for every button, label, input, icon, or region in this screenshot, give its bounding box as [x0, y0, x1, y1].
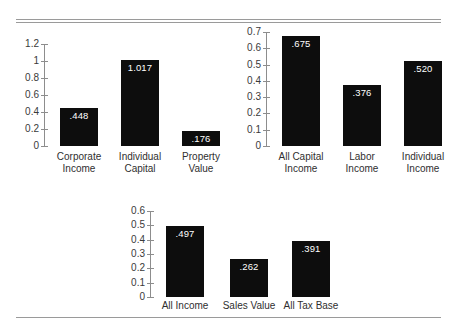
- y-axis-tick: [263, 97, 270, 98]
- y-axis-tick: [263, 48, 270, 49]
- y-axis-tick: [147, 297, 154, 298]
- x-axis-category-label: All Income: [152, 300, 218, 312]
- bar-value-label: .448: [60, 111, 98, 121]
- y-axis-tick-label: 0.6: [6, 90, 39, 100]
- bar: .675: [282, 36, 320, 146]
- bar: .497: [166, 226, 204, 297]
- y-axis-tick: [41, 44, 48, 45]
- x-axis-category-label: Individual Income: [390, 151, 456, 174]
- y-axis-tick-label: 0.2: [112, 263, 145, 273]
- x-axis-category-label: All Capital Income: [268, 151, 334, 174]
- bar: .376: [343, 85, 381, 146]
- y-axis-tick: [41, 146, 48, 147]
- y-axis-tick-label: 0.3: [112, 249, 145, 259]
- y-axis-tick: [263, 32, 270, 33]
- y-axis-tick-label: 1.2: [6, 39, 39, 49]
- y-axis-tick-label: 0.6: [232, 43, 261, 53]
- y-axis-tick: [263, 146, 270, 147]
- y-axis-tick: [41, 78, 48, 79]
- y-axis-tick: [147, 240, 154, 241]
- bottom-rule: [16, 317, 441, 318]
- bar: .262: [230, 259, 268, 297]
- y-axis-line: [266, 32, 267, 146]
- y-axis-tick: [41, 129, 48, 130]
- y-axis-tick-label: 0.2: [6, 124, 39, 134]
- bar-value-label: .176: [182, 134, 220, 144]
- bar: .448: [60, 108, 98, 146]
- y-axis-tick: [263, 65, 270, 66]
- y-axis-tick: [263, 130, 270, 131]
- bar: .391: [292, 241, 330, 297]
- y-axis-tick-label: 0.1: [232, 125, 261, 135]
- bar: .176: [182, 131, 220, 146]
- y-axis-tick: [147, 254, 154, 255]
- y-axis-tick-label: 0: [232, 141, 261, 151]
- bar: .520: [404, 61, 442, 146]
- bar-chart-top-left: 00.20.40.60.811.2.448Corporate Income1.0…: [6, 34, 228, 179]
- y-axis-tick-label: 0.4: [112, 235, 145, 245]
- y-axis-tick: [263, 113, 270, 114]
- bar: 1.017: [121, 60, 159, 146]
- y-axis-tick: [41, 61, 48, 62]
- x-axis-category-label: Labor Income: [329, 151, 395, 174]
- y-axis-tick-label: 0.7: [232, 27, 261, 37]
- y-axis-tick-label: 1: [6, 56, 39, 66]
- bar-value-label: .262: [230, 262, 268, 272]
- y-axis-tick: [147, 225, 154, 226]
- x-axis-category-label: Property Value: [169, 151, 233, 174]
- x-axis-category-label: Individual Capital: [108, 151, 172, 174]
- y-axis-tick-label: 0.4: [232, 76, 261, 86]
- y-axis-tick-label: 0.2: [232, 108, 261, 118]
- bar-value-label: .675: [282, 39, 320, 49]
- bar-value-label: .391: [292, 244, 330, 254]
- y-axis-tick: [147, 268, 154, 269]
- bar-chart-bottom: 00.10.20.30.40.50.6.497All Income.262Sal…: [112, 205, 347, 315]
- bar-value-label: .497: [166, 229, 204, 239]
- y-axis-tick-label: 0: [6, 141, 39, 151]
- y-axis-tick: [41, 112, 48, 113]
- y-axis-tick: [147, 283, 154, 284]
- y-axis-tick-label: 0.6: [112, 206, 145, 216]
- x-axis-category-label: Corporate Income: [47, 151, 111, 174]
- figure-canvas: 00.20.40.60.811.2.448Corporate Income1.0…: [0, 0, 457, 331]
- bar-value-label: .376: [343, 88, 381, 98]
- x-axis-category-label: All Tax Base: [278, 300, 344, 312]
- y-axis-tick-label: 0.1: [112, 278, 145, 288]
- y-axis-tick: [147, 211, 154, 212]
- y-axis-tick-label: 0.3: [232, 92, 261, 102]
- y-axis-tick-label: 0.4: [6, 107, 39, 117]
- bar-value-label: 1.017: [121, 63, 159, 73]
- bar-value-label: .520: [404, 64, 442, 74]
- bar-chart-top-right: 00.10.20.30.40.50.60.7.675All Capital In…: [232, 22, 454, 180]
- y-axis-tick: [263, 81, 270, 82]
- x-axis-category-label: Sales Value: [216, 300, 282, 312]
- y-axis-tick: [41, 95, 48, 96]
- y-axis-tick-label: 0.5: [112, 220, 145, 230]
- y-axis-tick-label: 0.8: [6, 73, 39, 83]
- y-axis-tick-label: 0.5: [232, 60, 261, 70]
- y-axis-tick-label: 0: [112, 292, 145, 302]
